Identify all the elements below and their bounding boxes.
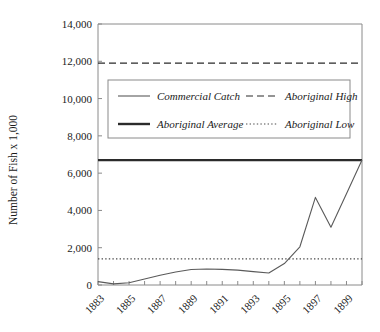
legend-label-aboriginal-low: Aboriginal Low <box>284 118 355 130</box>
x-tick-label: 1883 <box>82 292 106 316</box>
chart-figure: Number of Fish x 1,000 02,0004,0006,0008… <box>0 0 380 332</box>
y-tick-label: 12,000 <box>62 55 93 67</box>
series-commercial-catch <box>98 160 362 284</box>
x-tick-label: 1889 <box>176 292 200 316</box>
legend-label-aboriginal-high: Aboriginal High <box>284 90 358 102</box>
x-tick-label: 1899 <box>331 292 355 316</box>
x-tick-label: 1885 <box>113 292 137 316</box>
y-axis-title: Number of Fish x 1,000 <box>7 115 20 225</box>
x-axis-tick-labels: 188318851887188918911893189518971899 <box>82 292 355 316</box>
y-axis-tick-labels: 02,0004,0006,0008,00010,00012,00014,000 <box>62 18 93 291</box>
legend-label-commercial-catch: Commercial Catch <box>157 90 240 102</box>
y-tick-label: 14,000 <box>62 18 93 30</box>
y-tick-label: 6,000 <box>67 167 92 179</box>
x-tick-label: 1891 <box>207 292 231 316</box>
y-tick-label: 4,000 <box>67 204 92 216</box>
legend-label-aboriginal-average: Aboriginal Average <box>156 118 243 130</box>
y-tick-label: 0 <box>87 279 93 291</box>
chart-legend: Commercial Catch Aboriginal High Aborigi… <box>108 80 358 138</box>
x-tick-label: 1897 <box>300 292 324 316</box>
x-axis-tick-marks <box>98 281 362 285</box>
fish-catch-line-chart: Number of Fish x 1,000 02,0004,0006,0008… <box>0 0 380 332</box>
x-tick-label: 1893 <box>238 292 262 316</box>
y-tick-label: 10,000 <box>62 93 93 105</box>
x-tick-label: 1887 <box>144 292 168 316</box>
y-tick-label: 2,000 <box>67 242 92 254</box>
x-tick-label: 1895 <box>269 292 293 316</box>
y-tick-label: 8,000 <box>67 130 92 142</box>
